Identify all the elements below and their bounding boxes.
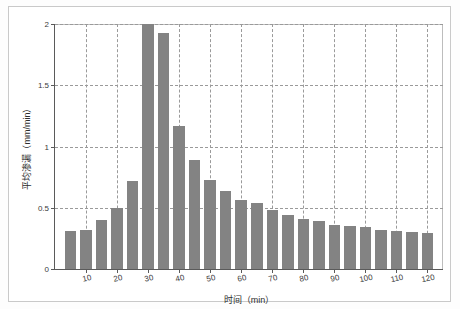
y-tick-label: 0.5 xyxy=(38,203,49,212)
bar xyxy=(313,221,324,269)
x-tick-label: 90 xyxy=(330,273,341,284)
x-tick-label: 60 xyxy=(237,273,248,284)
bar xyxy=(251,203,262,269)
bar xyxy=(65,231,76,269)
bar xyxy=(204,180,215,269)
x-tick-label: 40 xyxy=(175,273,186,284)
bar xyxy=(298,219,309,269)
bar xyxy=(173,126,184,269)
y-axis-line xyxy=(54,24,55,269)
bar xyxy=(111,208,122,269)
bar xyxy=(375,230,386,269)
x-axis-title: 时间（min） xyxy=(55,293,443,306)
bar xyxy=(189,160,200,269)
chart-page: 00.511.52 102030405060708090100110120 时间… xyxy=(0,0,460,309)
gridline-vertical xyxy=(427,24,428,269)
plot-area: 00.511.52 102030405060708090100110120 xyxy=(55,24,443,269)
bar xyxy=(329,225,340,269)
bar xyxy=(142,24,153,269)
x-tick-label: 50 xyxy=(206,273,217,284)
x-tick-label: 100 xyxy=(359,273,374,285)
x-tick-label: 120 xyxy=(421,273,436,285)
gridline-horizontal xyxy=(55,24,443,25)
y-axis-title: 平均渗漏（mm/min） xyxy=(19,24,33,269)
x-tick-label: 110 xyxy=(390,273,404,284)
bar xyxy=(80,230,91,269)
x-tick-label: 30 xyxy=(144,273,155,284)
x-tick-label: 70 xyxy=(268,273,279,284)
y-tick-label: 1 xyxy=(45,142,49,151)
bar xyxy=(344,226,355,269)
bar xyxy=(406,232,417,269)
y-axis-title-text: 平均渗漏（mm/min） xyxy=(20,104,33,190)
figure-frame: 00.511.52 102030405060708090100110120 时间… xyxy=(8,6,451,302)
bar xyxy=(422,233,433,269)
x-tick-label: 20 xyxy=(113,273,124,284)
y-tick-label: 2 xyxy=(45,20,49,29)
bar xyxy=(360,227,371,269)
x-axis-line xyxy=(54,269,443,270)
bar xyxy=(220,191,231,269)
bar xyxy=(267,210,278,269)
bar xyxy=(158,33,169,269)
x-tick-label: 10 xyxy=(82,273,93,284)
x-tick-label: 80 xyxy=(299,273,310,284)
y-tick-label: 0 xyxy=(45,265,49,274)
bar xyxy=(391,231,402,269)
gridline-horizontal xyxy=(55,147,443,148)
bar xyxy=(96,220,107,269)
bar xyxy=(235,200,246,269)
y-tick-label: 1.5 xyxy=(38,81,49,90)
gridline-horizontal xyxy=(55,85,443,86)
bar xyxy=(127,181,138,269)
bar xyxy=(282,215,293,269)
